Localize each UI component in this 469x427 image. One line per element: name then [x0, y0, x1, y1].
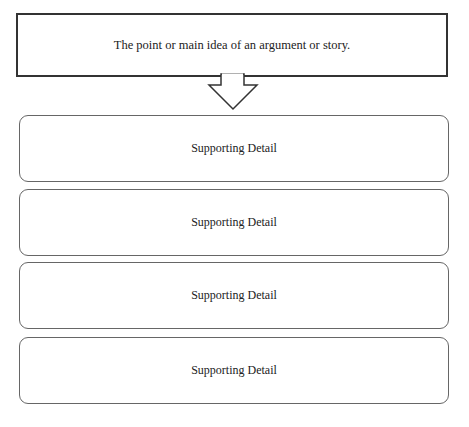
- supporting-detail-box-4: Supporting Detail: [19, 337, 449, 404]
- supporting-detail-box-1: Supporting Detail: [19, 115, 449, 182]
- down-arrow-icon: [0, 0, 469, 120]
- supporting-detail-text: Supporting Detail: [191, 288, 277, 303]
- supporting-detail-box-3: Supporting Detail: [19, 262, 449, 329]
- supporting-detail-text: Supporting Detail: [191, 141, 277, 156]
- supporting-detail-text: Supporting Detail: [191, 215, 277, 230]
- supporting-detail-text: Supporting Detail: [191, 363, 277, 378]
- supporting-detail-box-2: Supporting Detail: [19, 189, 449, 256]
